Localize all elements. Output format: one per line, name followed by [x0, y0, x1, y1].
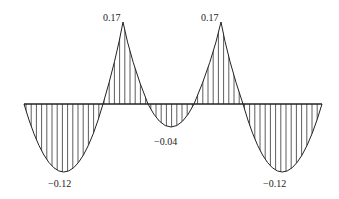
moment-curve: [24, 22, 322, 172]
label-valley-middle: −0.04: [154, 136, 177, 147]
label-valley-right: −0.12: [263, 178, 286, 189]
label-peak-right: 0.17: [201, 12, 219, 23]
label-valley-left: −0.12: [48, 178, 71, 189]
moment-diagram: 0.17 0.17 −0.12 −0.04 −0.12: [0, 0, 339, 199]
hatch-fill: [26, 15, 317, 180]
label-peak-left: 0.17: [103, 12, 121, 23]
